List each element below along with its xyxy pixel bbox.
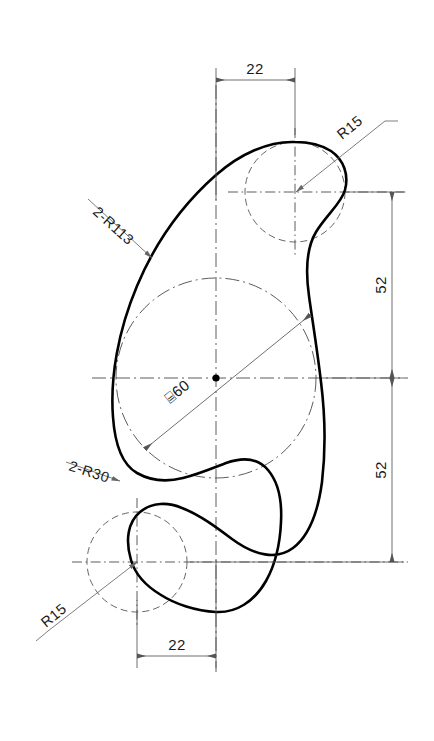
dim-label-52-upper: 52: [372, 276, 389, 294]
dimension-right-lower-52: 52: [190, 378, 404, 562]
annotation-label-bottom-r15: R15: [38, 600, 70, 630]
drawing-sheet: 22 22 52 52 ⌸60: [0, 0, 434, 741]
leader-shelf-bottom-r15: [36, 631, 48, 641]
dim-line-diameter-60: [145, 315, 310, 449]
dim-label-52-lower: 52: [372, 461, 389, 479]
centerline-group: [72, 85, 408, 672]
part-outline: [112, 142, 346, 612]
dim-label-top-22: 22: [246, 60, 264, 77]
dimension-bottom-22: 22: [137, 560, 216, 668]
dimension-top-22: 22: [216, 60, 295, 200]
leader-line-bottom-r15: [48, 562, 137, 631]
dim-label-bottom-22: 22: [168, 636, 186, 653]
center-point-marker: [212, 374, 219, 381]
annotation-label-top-r15: R15: [334, 112, 366, 142]
dimension-right-upper-52: 52: [322, 192, 404, 378]
annotation-2-r30: 2-R30: [66, 458, 120, 486]
annotation-2-r113: 2-R113: [88, 199, 152, 258]
annotation-label-2-r113: 2-R113: [90, 203, 137, 248]
technical-drawing-canvas: 22 22 52 52 ⌸60: [0, 0, 434, 741]
annotation-bottom-r15: R15: [36, 562, 137, 641]
dim-label-diameter-60: ⌸60: [161, 376, 193, 406]
cam-plate-contour: [112, 142, 346, 612]
diameter-60-dimension: ⌸60: [145, 315, 310, 449]
annotation-label-2-r30: 2-R30: [67, 458, 111, 486]
